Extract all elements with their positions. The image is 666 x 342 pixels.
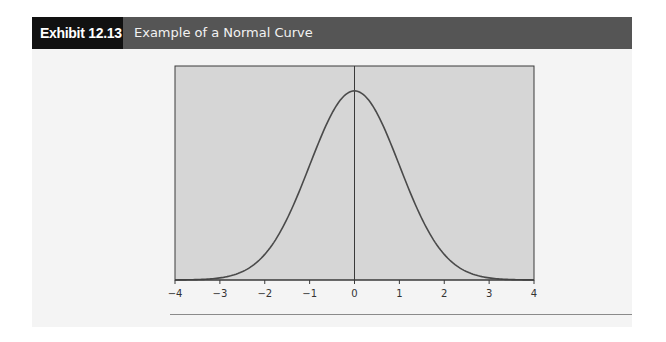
normal-curve-chart: −4−3−2−101234 [0,0,666,342]
x-tick-label: −1 [302,288,317,299]
x-tick-label: 3 [486,288,492,299]
x-tick-label: −4 [168,288,183,299]
x-tick-label: 1 [396,288,402,299]
x-axis-ticks: −4−3−2−101234 [168,280,538,299]
bottom-rule [170,314,632,315]
x-tick-label: −3 [213,288,228,299]
x-tick-label: 0 [351,288,357,299]
x-tick-label: 2 [441,288,447,299]
x-tick-label: 4 [531,288,537,299]
x-tick-label: −2 [257,288,272,299]
